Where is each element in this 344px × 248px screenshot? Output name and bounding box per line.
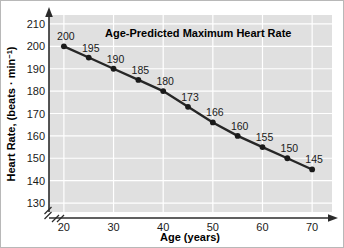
y-axis-title: Heart Rate, (beats · min−1): [5, 46, 18, 181]
y-tick-label: 210: [27, 18, 45, 30]
data-point-marker: [86, 55, 92, 61]
y-tick-label: 130: [27, 197, 45, 209]
data-point-marker: [260, 144, 266, 150]
y-axis-tick-labels: 130140150160170180190200210: [27, 18, 45, 209]
chart-title: Age-Predicted Maximum Heart Rate: [105, 27, 291, 39]
y-tick-label: 190: [27, 63, 45, 75]
data-point-marker: [61, 43, 67, 49]
y-tick-label: 150: [27, 152, 45, 164]
data-point-marker: [309, 167, 315, 173]
y-tick-label: 140: [27, 175, 45, 187]
data-point-marker: [111, 66, 117, 72]
chart-figure: 130140150160170180190200210 203040506070…: [0, 0, 344, 248]
data-point-label: 166: [206, 106, 224, 118]
data-point-label: 150: [281, 142, 299, 154]
data-point-marker: [210, 120, 216, 126]
data-point-marker: [160, 88, 166, 94]
y-tick-label: 180: [27, 85, 45, 97]
data-point-label: 173: [181, 91, 199, 103]
data-point-label: 160: [231, 120, 249, 132]
y-axis-title-group: Heart Rate, (beats · min−1): [5, 46, 18, 181]
data-point-label: 180: [156, 75, 174, 87]
x-axis-title: Age (years): [160, 231, 220, 243]
data-point-label: 200: [57, 30, 75, 42]
x-tick-label: 30: [107, 221, 119, 233]
y-tick-label: 160: [27, 130, 45, 142]
data-point-marker: [235, 133, 241, 139]
data-point-label: 145: [305, 153, 323, 165]
y-tick-label: 200: [27, 40, 45, 52]
x-tick-label: 70: [306, 221, 318, 233]
data-point-label: 185: [132, 64, 150, 76]
data-point-label: 155: [256, 131, 274, 143]
data-point-label: 195: [82, 42, 100, 54]
data-point-marker: [135, 77, 141, 83]
x-tick-label: 20: [58, 221, 70, 233]
x-tick-label: 60: [256, 221, 268, 233]
y-tick-label: 170: [27, 108, 45, 120]
heart-rate-line-chart: 130140150160170180190200210 203040506070…: [1, 1, 344, 248]
data-point-marker: [185, 104, 191, 110]
data-point-label: 190: [107, 53, 125, 65]
data-point-marker: [284, 155, 290, 161]
